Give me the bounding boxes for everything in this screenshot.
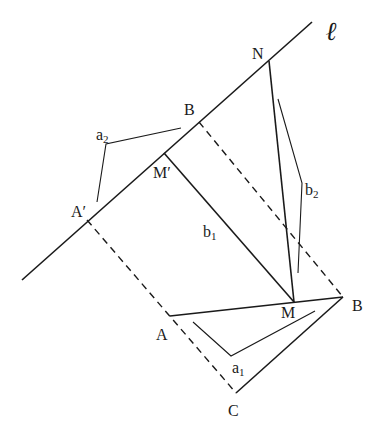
line-l xyxy=(22,22,312,280)
dashed-segment-a-prime-c xyxy=(87,220,236,393)
label-a2: a2 xyxy=(96,126,109,145)
bracket-a1 xyxy=(193,311,315,356)
label-m-prime: M′ xyxy=(153,164,171,181)
label-b: B xyxy=(352,297,363,314)
label-b1: b1 xyxy=(203,223,217,242)
label-a1: a1 xyxy=(232,359,245,378)
segment-ab xyxy=(170,297,343,316)
label-a: A xyxy=(156,326,168,343)
label-a-prime: A′ xyxy=(71,203,86,220)
label-b-top: B xyxy=(184,101,195,118)
label-b2: b2 xyxy=(305,181,319,200)
label-m: M xyxy=(281,304,295,321)
label-line-l: ℓ xyxy=(326,17,337,46)
segment-m-prime-m xyxy=(164,153,294,302)
label-c: C xyxy=(228,402,239,419)
label-n: N xyxy=(252,45,264,62)
dashed-segment-b-top-b xyxy=(199,122,343,297)
geometry-diagram: ℓ N B M′ A′ M B A C a2 b2 b1 a1 xyxy=(0,0,383,439)
segment-nm xyxy=(269,61,294,302)
